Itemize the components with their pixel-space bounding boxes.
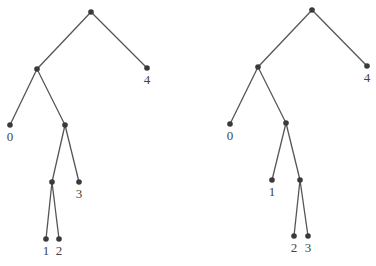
left-tree-edge	[65, 125, 79, 182]
left-tree-node-leaf-1	[43, 236, 49, 242]
right-tree-node-internal	[309, 7, 315, 13]
tree-diagram-canvas: 4031240123	[0, 0, 376, 266]
right-tree-node-leaf-4	[364, 63, 370, 69]
left-tree-leaf-label: 4	[144, 72, 151, 87]
labels-layer: 4031240123	[7, 70, 371, 258]
left-tree-leaf-label: 1	[43, 243, 50, 258]
left-tree-leaf-label: 3	[76, 186, 83, 201]
right-tree-leaf-label: 1	[269, 184, 276, 199]
right-tree-edge	[258, 67, 286, 123]
left-tree-edge	[52, 125, 65, 182]
left-tree-node-internal	[88, 9, 94, 15]
left-tree-node-internal	[62, 122, 68, 128]
left-tree-edge	[37, 69, 65, 125]
left-tree-edge	[91, 12, 147, 68]
left-tree-node-leaf-2	[56, 236, 62, 242]
left-tree-leaf-label: 2	[56, 243, 63, 258]
right-tree-edge	[272, 123, 286, 180]
left-tree-edge	[52, 182, 59, 239]
right-tree-edge	[286, 123, 300, 180]
right-tree-node-leaf-3	[305, 233, 311, 239]
right-tree-leaf-label: 0	[227, 128, 234, 143]
right-tree-edge	[294, 180, 300, 236]
right-tree-node-internal	[255, 64, 261, 70]
left-tree-node-leaf-0	[7, 122, 13, 128]
left-tree-leaf-label: 0	[7, 129, 14, 144]
right-tree-edge	[230, 67, 258, 124]
right-tree-node-internal	[283, 120, 289, 126]
right-tree-node-leaf-1	[269, 177, 275, 183]
right-tree-edge	[312, 10, 367, 66]
right-tree-node-leaf-0	[227, 121, 233, 127]
right-tree-node-leaf-2	[291, 233, 297, 239]
left-tree-edge	[46, 182, 52, 239]
right-tree-node-internal	[297, 177, 303, 183]
right-tree-edge	[258, 10, 312, 67]
right-tree-leaf-label: 4	[364, 70, 371, 85]
left-tree-edge	[10, 69, 37, 125]
right-tree-leaf-label: 2	[291, 240, 298, 255]
left-tree-node-leaf-3	[76, 179, 82, 185]
left-tree-edge	[37, 12, 91, 69]
left-tree-node-internal	[34, 66, 40, 72]
right-tree-edge	[300, 180, 308, 236]
left-tree-node-internal	[49, 179, 55, 185]
left-tree-node-leaf-4	[144, 65, 150, 71]
right-tree-leaf-label: 3	[305, 240, 312, 255]
